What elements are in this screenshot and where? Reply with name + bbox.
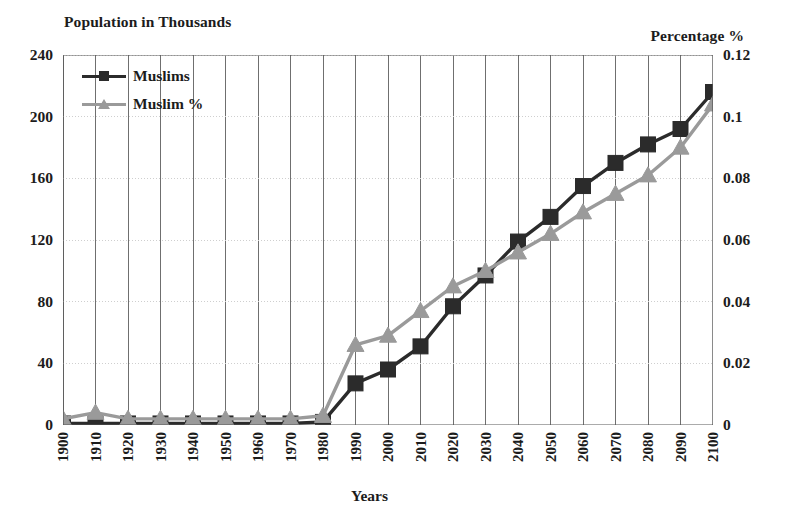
chart-legend: Muslims Muslim % <box>82 62 232 118</box>
x-axis-tick-label: 2030 <box>478 432 495 462</box>
legend-swatch-muslim-percent <box>82 97 126 111</box>
x-axis-tick-label: 2060 <box>575 432 592 462</box>
chart-container: Population in Thousands Percentage % Yea… <box>0 0 791 531</box>
x-axis-tick-label: 2090 <box>673 432 690 462</box>
y-axis-right-tick-label: 0.1 <box>723 108 742 126</box>
legend-item-muslims: Muslims <box>82 62 232 90</box>
y-axis-left-tick-label: 200 <box>0 108 53 126</box>
x-axis-tick-label: 1980 <box>315 432 332 462</box>
legend-item-muslim-percent: Muslim % <box>82 90 232 118</box>
x-axis-tick-label: 2000 <box>380 432 397 462</box>
x-axis-tick-label: 2050 <box>543 432 560 462</box>
y-axis-right-tick-label: 0.12 <box>723 46 750 64</box>
x-axis-tick-label: 2080 <box>640 432 657 462</box>
x-axis-tick-label: 1940 <box>185 432 202 462</box>
right-axis-title: Percentage % <box>651 27 744 45</box>
x-axis-tick-label: 2100 <box>705 432 722 462</box>
x-axis-tick-label: 1920 <box>120 432 137 462</box>
y-axis-left-tick-label: 160 <box>0 169 53 187</box>
y-axis-left-tick-label: 40 <box>0 354 53 372</box>
y-axis-right-tick-label: 0.06 <box>723 231 750 249</box>
y-axis-right-tick-label: 0 <box>723 416 731 434</box>
x-axis-tick-label: 2040 <box>510 432 527 462</box>
y-axis-left-tick-label: 120 <box>0 231 53 249</box>
x-axis-tick-label: 1960 <box>250 432 267 462</box>
x-axis-tick-label: 1910 <box>88 432 105 462</box>
y-axis-left-tick-label: 240 <box>0 46 53 64</box>
legend-swatch-muslims <box>82 69 126 83</box>
triangle-marker-icon <box>96 96 112 112</box>
x-axis-tick-label: 1990 <box>348 432 365 462</box>
legend-label-muslim-percent: Muslim % <box>133 95 203 113</box>
x-axis-tick-label: 1900 <box>55 432 72 462</box>
x-axis-title: Years <box>0 487 791 505</box>
left-axis-title: Population in Thousands <box>64 13 231 31</box>
y-axis-right-tick-label: 0.02 <box>723 354 750 372</box>
x-axis-tick-label: 1950 <box>218 432 235 462</box>
y-axis-right-tick-label: 0.04 <box>723 293 750 311</box>
x-axis-tick-label: 2070 <box>608 432 625 462</box>
legend-label-muslims: Muslims <box>133 67 190 85</box>
x-axis-tick-label: 2020 <box>445 432 462 462</box>
x-axis-tick-label: 2010 <box>413 432 430 462</box>
y-axis-right-tick-label: 0.08 <box>723 169 750 187</box>
x-axis-tick-label: 1930 <box>153 432 170 462</box>
square-marker-icon <box>96 68 112 84</box>
y-axis-left-tick-label: 80 <box>0 293 53 311</box>
y-axis-left-tick-label: 0 <box>0 416 53 434</box>
x-axis-tick-label: 1970 <box>283 432 300 462</box>
